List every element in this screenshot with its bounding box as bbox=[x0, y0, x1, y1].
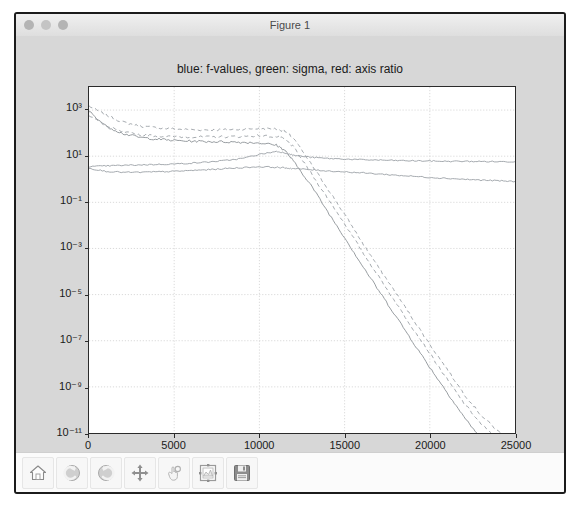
window-titlebar[interactable]: Figure 1 bbox=[16, 14, 564, 37]
window-title: Figure 1 bbox=[16, 14, 564, 36]
move-cross-icon bbox=[130, 463, 150, 483]
x-axis-tick-mark bbox=[174, 434, 175, 438]
chart-title: blue: f-values, green: sigma, red: axis … bbox=[16, 62, 564, 76]
home-icon bbox=[28, 463, 48, 483]
floppy-disk-icon bbox=[232, 463, 252, 483]
home-button[interactable] bbox=[22, 457, 54, 489]
x-axis-tick-label: 25000 bbox=[486, 439, 546, 451]
figure-window: Figure 1 blue: f-values, green: sigma, r… bbox=[14, 12, 566, 494]
x-axis-tick-mark bbox=[88, 434, 89, 438]
subplots-button[interactable] bbox=[192, 457, 224, 489]
y-axis-tick-label: 10¹ bbox=[36, 148, 82, 160]
x-axis-tick-mark bbox=[345, 434, 346, 438]
x-axis-tick-label: 15000 bbox=[315, 439, 375, 451]
x-axis-tick-label: 20000 bbox=[400, 439, 460, 451]
forward-arrow-icon bbox=[96, 463, 116, 483]
x-axis-tick-mark bbox=[430, 434, 431, 438]
plot-area[interactable] bbox=[88, 86, 516, 434]
zoom-button[interactable] bbox=[158, 457, 190, 489]
figure-canvas: blue: f-values, green: sigma, red: axis … bbox=[16, 36, 564, 454]
y-axis-tick-label: 10⁻⁹ bbox=[36, 380, 82, 393]
plot-svg bbox=[89, 87, 515, 433]
x-axis-tick-label: 10000 bbox=[229, 439, 289, 451]
matplotlib-toolbar bbox=[16, 452, 564, 492]
x-axis-tick-label: 0 bbox=[58, 439, 118, 451]
x-axis-tick-label: 5000 bbox=[144, 439, 204, 451]
x-axis-tick-mark bbox=[516, 434, 517, 438]
forward-button[interactable] bbox=[90, 457, 122, 489]
subplot-config-icon bbox=[198, 463, 218, 483]
y-axis-tick-label: 10³ bbox=[36, 101, 82, 113]
y-axis-tick-label: 10⁻¹¹ bbox=[36, 426, 82, 439]
zoom-hand-icon bbox=[164, 463, 184, 483]
x-axis-tick-mark bbox=[259, 434, 260, 438]
y-axis-tick-label: 10⁻⁷ bbox=[36, 333, 82, 346]
y-axis-tick-label: 10⁻³ bbox=[36, 240, 82, 253]
y-axis-tick-label: 10⁻⁵ bbox=[36, 287, 82, 300]
back-button[interactable] bbox=[56, 457, 88, 489]
save-button[interactable] bbox=[226, 457, 258, 489]
back-arrow-icon bbox=[62, 463, 82, 483]
pan-button[interactable] bbox=[124, 457, 156, 489]
y-axis-tick-label: 10⁻¹ bbox=[36, 194, 82, 207]
